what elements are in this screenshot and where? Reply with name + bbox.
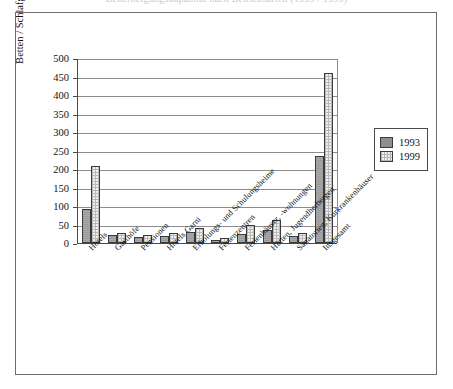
- figure-caption: Beherbergungskapazität nach Betriebsarte…: [0, 0, 453, 5]
- legend-label-1993: 1993: [399, 137, 420, 148]
- y-tick-label: 150: [35, 184, 69, 194]
- x-axis-labels: HotelsGasthöfePensionenHotels GarniErhol…: [77, 246, 337, 366]
- legend: 1993 1999: [374, 128, 428, 171]
- y-tick-label: 350: [35, 110, 69, 120]
- legend-label-1999: 1999: [399, 151, 420, 162]
- bar-group: [160, 59, 178, 243]
- y-tick-label: 0: [35, 239, 69, 249]
- y-tick-mark: [73, 244, 77, 245]
- legend-item-1999: 1999: [380, 151, 420, 162]
- chart-figure: Beherbergungskapazität nach Betriebsarte…: [0, 0, 453, 389]
- legend-item-1993: 1993: [380, 137, 420, 148]
- bar-group: [134, 59, 152, 243]
- bar-group: [108, 59, 126, 243]
- y-tick-label: 100: [35, 202, 69, 212]
- y-tick-label: 450: [35, 73, 69, 83]
- y-axis-title: Betten / Schlafgelegenheiten in 1.000: [14, 0, 25, 85]
- bar-1999: [91, 166, 100, 243]
- legend-swatch-1999-icon: [380, 151, 393, 162]
- y-tick-label: 500: [35, 54, 69, 64]
- y-tick-label: 200: [35, 165, 69, 175]
- bar-group: [82, 59, 100, 243]
- y-tick-label: 50: [35, 221, 69, 231]
- y-tick-label: 300: [35, 128, 69, 138]
- y-tick-label: 250: [35, 147, 69, 157]
- legend-swatch-1993-icon: [380, 137, 393, 148]
- y-tick-label: 400: [35, 91, 69, 101]
- bar-1993: [82, 209, 91, 243]
